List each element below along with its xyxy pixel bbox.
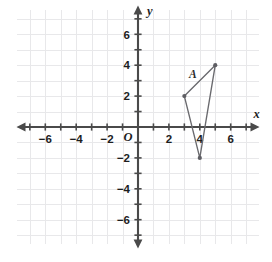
coordinate-plane-figure: −6−4−2246642−2−4−6O xy A xyxy=(0,0,272,262)
y-tick-label: −4 xyxy=(117,183,131,195)
x-tick-label: −2 xyxy=(101,133,114,145)
vertex-point xyxy=(182,94,186,98)
vertex-point xyxy=(198,156,202,160)
y-tick-label: 2 xyxy=(124,90,130,102)
x-tick-label: 2 xyxy=(166,133,172,145)
origin-label: O xyxy=(123,130,132,144)
y-tick-label: −2 xyxy=(117,152,130,164)
y-tick-label: 6 xyxy=(124,29,130,41)
y-tick-label: −6 xyxy=(117,214,130,226)
x-axis-label: x xyxy=(252,107,259,121)
y-tick-label: 4 xyxy=(124,59,131,71)
x-tick-label: −6 xyxy=(39,133,52,145)
vertex-point xyxy=(213,63,217,67)
shape-label-a: A xyxy=(188,68,197,80)
coordinate-plane-svg: −6−4−2246642−2−4−6O xy A xyxy=(0,0,272,262)
y-axis-label: y xyxy=(145,4,153,18)
x-tick-label: 6 xyxy=(227,133,233,145)
x-tick-label: −4 xyxy=(70,133,84,145)
